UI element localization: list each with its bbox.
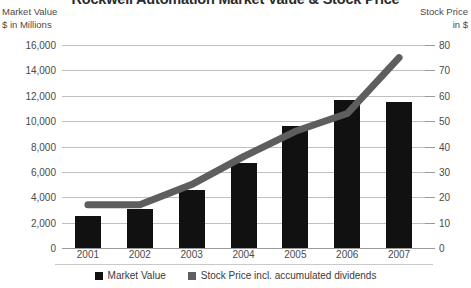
legend-item: Stock Price incl. accumulated dividends [188,270,377,281]
y-axis-left-tick-label: 12,000 [25,90,56,101]
x-axis-tick-label: 2004 [232,249,254,260]
legend-label: Market Value [108,270,166,281]
x-axis-tick-label: 2007 [388,249,410,260]
y-axis-right-tick-mark [425,121,435,122]
y-axis-left-tick-label: 10,000 [25,116,56,127]
x-axis-tick-label: 2002 [129,249,151,260]
right-axis-caption-line1: Stock Price [420,5,468,18]
legend-label: Stock Price incl. accumulated dividends [201,270,377,281]
y-axis-right-tick-mark [425,172,435,173]
x-axis-rule [55,264,433,265]
y-axis-right-tick-label: 30 [439,166,450,177]
y-axis-left-tick-label: 6,000 [31,166,56,177]
left-axis-caption: Market Value $ in Millions [2,5,57,31]
right-axis-caption: Stock Price in $ [420,5,468,31]
right-axis-caption-line2: in $ [420,18,468,31]
y-axis-left-tick-label: 2,000 [31,217,56,228]
y-axis-right-tick-label: 50 [439,116,450,127]
y-axis-left-tick-label: 4,000 [31,192,56,203]
page-title: Rockwell Automation Market Value & Stock… [2,0,469,7]
y-axis-right-tick-mark [425,45,435,46]
y-axis-right-tick-label: 80 [439,40,450,51]
y-axis-right-tick-label: 0 [439,243,445,254]
y-axis-right-tick-mark [425,223,435,224]
x-axis-tick-label: 2003 [181,249,203,260]
chart-legend: Market ValueStock Price incl. accumulate… [0,270,471,281]
y-axis-right-tick-label: 10 [439,217,450,228]
legend-swatch-icon [95,272,103,280]
x-axis-tick-label: 2001 [77,249,99,260]
y-axis-right-tick-label: 60 [439,90,450,101]
x-axis-tick-label: 2006 [336,249,358,260]
line-series-stock-price [62,45,425,248]
y-axis-right-tick-mark [425,96,435,97]
y-axis-left-tick-label: 8,000 [31,141,56,152]
y-axis-left-tick-label: 16,000 [25,40,56,51]
left-axis-caption-line2: $ in Millions [2,18,57,31]
y-axis-right-tick-label: 40 [439,141,450,152]
y-axis-left-tick-label: 0 [50,243,56,254]
legend-item: Market Value [95,270,166,281]
left-axis-caption-line1: Market Value [2,5,57,18]
y-axis-left-tick-label: 14,000 [25,65,56,76]
y-axis-right-tick-label: 20 [439,192,450,203]
y-axis-right-tick-mark [425,70,435,71]
y-axis-right-tick-mark [425,248,435,249]
y-axis-right-tick-mark [425,197,435,198]
y-axis-right-tick-label: 70 [439,65,450,76]
x-axis-tick-label: 2005 [284,249,306,260]
y-axis-right-tick-mark [425,147,435,148]
legend-swatch-icon [188,272,196,280]
chart-plot-area: 02,0004,0006,0008,00010,00012,00014,0001… [62,45,425,248]
